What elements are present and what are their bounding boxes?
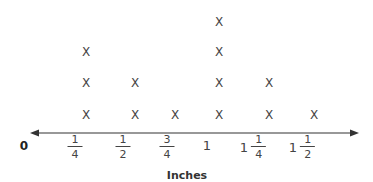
x-mark: X bbox=[215, 46, 223, 58]
tick-whole-number: 1 bbox=[240, 141, 248, 154]
right-arrow-icon bbox=[350, 130, 359, 137]
fraction-numerator: 3 bbox=[160, 134, 175, 147]
fraction-numerator: 1 bbox=[251, 134, 266, 147]
line-plot: 0 1412341114112 XXXXXXXXXXXXX Inches bbox=[0, 0, 373, 182]
x-mark: X bbox=[82, 46, 90, 58]
tick-whole-number: 1 bbox=[289, 141, 297, 154]
fraction-denominator: 2 bbox=[304, 147, 311, 160]
tick-whole-number: 1 bbox=[203, 139, 211, 152]
number-line-axis bbox=[0, 0, 373, 182]
tick-fraction: 14 bbox=[251, 134, 266, 160]
tick-label: 112 bbox=[289, 134, 315, 160]
tick-label: 14 bbox=[68, 134, 83, 160]
tick-fraction: 14 bbox=[68, 134, 83, 160]
left-arrow-icon bbox=[30, 130, 39, 137]
tick-label: 114 bbox=[240, 134, 266, 160]
x-mark: X bbox=[310, 109, 318, 121]
tick-label: 12 bbox=[116, 134, 131, 160]
x-mark: X bbox=[215, 77, 223, 89]
x-axis-label: Inches bbox=[167, 169, 207, 182]
fraction-denominator: 4 bbox=[164, 147, 171, 160]
x-mark: X bbox=[131, 77, 139, 89]
fraction-denominator: 4 bbox=[255, 147, 262, 160]
tick-label: 1 bbox=[203, 134, 211, 152]
fraction-denominator: 4 bbox=[72, 147, 79, 160]
tick-fraction: 12 bbox=[300, 134, 315, 160]
fraction-numerator: 1 bbox=[116, 134, 131, 147]
x-mark: X bbox=[215, 109, 223, 121]
x-mark: X bbox=[82, 109, 90, 121]
fraction-numerator: 1 bbox=[300, 134, 315, 147]
x-mark: X bbox=[265, 109, 273, 121]
fraction-denominator: 2 bbox=[120, 147, 127, 160]
x-mark: X bbox=[131, 109, 139, 121]
x-mark: X bbox=[265, 77, 273, 89]
x-mark: X bbox=[171, 109, 179, 121]
x-mark: X bbox=[215, 16, 223, 28]
tick-fraction: 12 bbox=[116, 134, 131, 160]
tick-label: 34 bbox=[160, 134, 175, 160]
origin-label: 0 bbox=[20, 139, 28, 153]
x-mark: X bbox=[82, 77, 90, 89]
fraction-numerator: 1 bbox=[68, 134, 83, 147]
tick-fraction: 34 bbox=[160, 134, 175, 160]
